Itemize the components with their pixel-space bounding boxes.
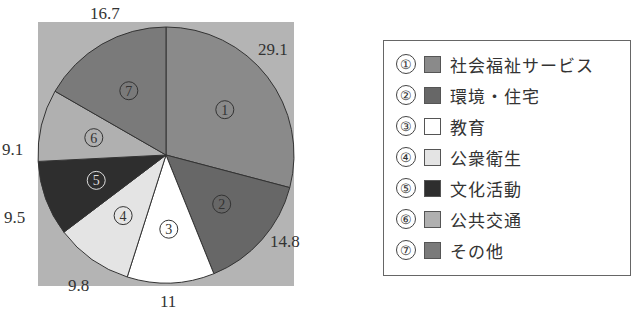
slice-marker: 7: [125, 84, 132, 99]
slice-marker: 1: [221, 103, 228, 118]
value-label: 9.1: [2, 140, 23, 160]
legend: ① 社会福祉サービス ② 環境・住宅 ③ 教育 ④ 公衆衛生 ⑤ 文化活動 ⑥ …: [383, 40, 631, 276]
legend-swatch: [424, 87, 441, 104]
legend-swatch: [424, 149, 441, 166]
legend-marker: ④: [396, 147, 416, 167]
legend-item-public-transport: ⑥ 公共交通: [396, 206, 522, 232]
legend-marker: ⑥: [396, 209, 416, 229]
legend-label: 文化活動: [450, 176, 522, 201]
legend-swatch: [424, 56, 441, 73]
value-label: 11: [160, 292, 176, 311]
value-label: 9.8: [68, 276, 89, 296]
legend-label: 環境・住宅: [450, 83, 540, 108]
legend-label: 教育: [450, 114, 486, 139]
legend-swatch: [424, 211, 441, 228]
legend-item-public-health: ④ 公衆衛生: [396, 144, 522, 170]
slice-marker: 4: [120, 209, 127, 224]
legend-item-environment-housing: ② 環境・住宅: [396, 82, 540, 108]
legend-marker: ⑦: [396, 240, 416, 260]
legend-label: 社会福祉サービス: [450, 52, 594, 77]
legend-label: その他: [450, 238, 504, 263]
value-label: 29.1: [258, 40, 288, 60]
legend-item-cultural-activities: ⑤ 文化活動: [396, 175, 522, 201]
legend-item-education: ③ 教育: [396, 113, 486, 139]
legend-marker: ①: [396, 54, 416, 74]
legend-item-social-welfare: ① 社会福祉サービス: [396, 51, 594, 77]
legend-label: 公衆衛生: [450, 145, 522, 170]
slice-marker: 2: [218, 197, 225, 212]
legend-marker: ③: [396, 116, 416, 136]
pie-slices: 1234567: [0, 0, 340, 311]
value-label: 16.7: [90, 4, 120, 24]
legend-label: 公共交通: [450, 207, 522, 232]
legend-swatch: [424, 242, 441, 259]
legend-item-other: ⑦ その他: [396, 237, 504, 263]
pie-chart: 1234567 29.114.8119.89.59.116.7: [0, 0, 340, 311]
value-label: 14.8: [270, 232, 300, 252]
legend-swatch: [424, 180, 441, 197]
legend-marker: ②: [396, 85, 416, 105]
value-label: 9.5: [4, 208, 25, 228]
slice-marker: 5: [93, 173, 100, 188]
slice-marker: 3: [165, 222, 172, 237]
legend-swatch: [424, 118, 441, 135]
slice-marker: 6: [90, 131, 97, 146]
legend-marker: ⑤: [396, 178, 416, 198]
